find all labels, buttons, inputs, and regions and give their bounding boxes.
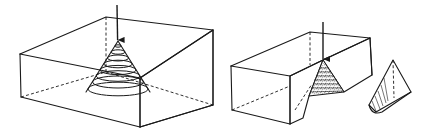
left-block-edges [20, 17, 213, 127]
figure-canvas [0, 0, 430, 132]
hertzian-cone-figure: Hertzian cone fracture: point load on a … [0, 0, 430, 132]
right-panel [231, 22, 411, 124]
right-block-edges [231, 32, 372, 124]
extracted-cone [369, 60, 411, 113]
left-block-side-face [140, 30, 213, 127]
conical-groove [309, 60, 344, 96]
left-load-arrow [117, 5, 118, 40]
left-panel [20, 5, 213, 127]
